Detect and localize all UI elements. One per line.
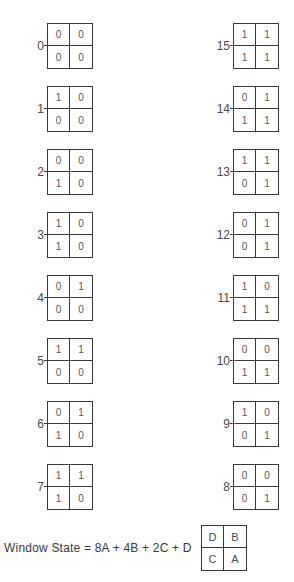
state-number-label: 10 — [217, 354, 230, 368]
grid-cell: 1 — [234, 402, 256, 424]
grid-cell: 0 — [256, 276, 278, 298]
grid-cell: 1 — [234, 46, 256, 68]
state-number-label: 14 — [217, 102, 230, 116]
legend-cell-a: A — [224, 548, 246, 570]
grid-cell: 1 — [256, 109, 278, 131]
window-state-11: 111011 — [0, 275, 294, 323]
legend-grid: D B C A — [201, 525, 247, 571]
window-state-15: 151111 — [0, 23, 294, 71]
grid-cell: 0 — [234, 339, 256, 361]
state-grid: 0101 — [233, 212, 279, 258]
grid-cell: 1 — [256, 298, 278, 320]
legend-cell-c: C — [202, 548, 224, 570]
window-state-13: 131101 — [0, 149, 294, 197]
grid-cell: 0 — [234, 172, 256, 194]
grid-cell: 1 — [256, 213, 278, 235]
state-grid: 1001 — [233, 401, 279, 447]
grid-cell: 1 — [256, 150, 278, 172]
state-number-label: 11 — [218, 291, 230, 305]
state-grid: 0001 — [233, 464, 279, 510]
grid-cell: 0 — [234, 87, 256, 109]
window-state-14: 140111 — [0, 86, 294, 134]
grid-cell: 0 — [234, 424, 256, 446]
legend-cell-b: B — [224, 526, 246, 548]
grid-cell: 1 — [234, 276, 256, 298]
state-grid: 0111 — [233, 86, 279, 132]
grid-cell: 0 — [234, 487, 256, 509]
state-grid: 1011 — [233, 275, 279, 321]
grid-cell: 0 — [234, 465, 256, 487]
grid-cell: 1 — [256, 172, 278, 194]
formula-text: Window State = 8A + 4B + 2C + D — [4, 541, 192, 555]
legend-cell-d: D — [202, 526, 224, 548]
state-number-label: 15 — [217, 39, 230, 53]
state-grid: 0011 — [233, 338, 279, 384]
state-number-label: 12 — [217, 228, 230, 242]
grid-cell: 0 — [256, 339, 278, 361]
grid-cell: 1 — [256, 46, 278, 68]
grid-cell: 1 — [256, 24, 278, 46]
grid-cell: 1 — [256, 361, 278, 383]
grid-cell: 0 — [234, 235, 256, 257]
grid-cell: 1 — [234, 298, 256, 320]
state-number-label: 13 — [217, 165, 230, 179]
grid-cell: 1 — [256, 424, 278, 446]
grid-cell: 1 — [234, 361, 256, 383]
grid-cell: 0 — [256, 402, 278, 424]
state-number-label: 9 — [223, 417, 230, 431]
grid-cell: 1 — [256, 87, 278, 109]
window-state-9: 91001 — [0, 401, 294, 449]
grid-cell: 1 — [234, 24, 256, 46]
grid-cell: 1 — [234, 109, 256, 131]
state-grid: 1111 — [233, 23, 279, 69]
grid-cell: 0 — [256, 465, 278, 487]
grid-cell: 1 — [256, 487, 278, 509]
window-state-8: 80001 — [0, 464, 294, 512]
window-state-12: 120101 — [0, 212, 294, 260]
grid-cell: 0 — [234, 213, 256, 235]
state-grid: 1101 — [233, 149, 279, 195]
window-state-10: 100011 — [0, 338, 294, 386]
grid-cell: 1 — [234, 150, 256, 172]
grid-cell: 1 — [256, 235, 278, 257]
state-number-label: 8 — [223, 480, 230, 494]
